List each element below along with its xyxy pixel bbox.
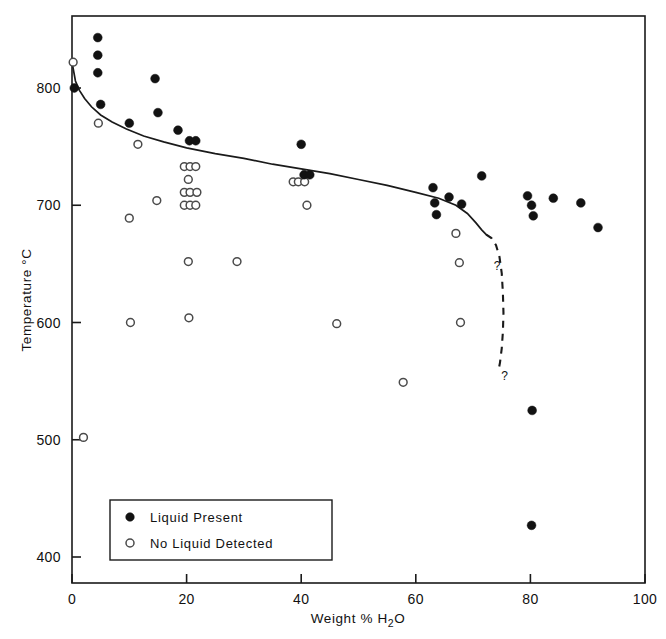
y-tick-label-700: 700 <box>36 197 61 213</box>
data-point-no-liquid-detected <box>333 320 341 328</box>
data-point-no-liquid-detected <box>94 119 102 127</box>
curve-question-mark: ? <box>494 259 501 273</box>
data-point-no-liquid-detected <box>303 201 311 209</box>
data-point-no-liquid-detected <box>455 259 463 267</box>
data-point-liquid-present <box>174 126 183 135</box>
data-point-liquid-present <box>527 201 536 210</box>
data-point-liquid-present <box>297 140 306 149</box>
legend: Liquid Present No Liquid Detected <box>110 500 332 560</box>
series-liquid-present-points <box>70 33 603 530</box>
data-point-liquid-present <box>154 108 163 117</box>
legend-marker-open-circle <box>126 539 134 547</box>
legend-label-liquid-present: Liquid Present <box>150 510 243 525</box>
series-no-liquid-detected-points <box>69 58 464 441</box>
scatter-plot: 400500600700800 020406080100 Temperature… <box>0 0 666 639</box>
data-point-liquid-present <box>477 172 486 181</box>
y-tick-label-600: 600 <box>36 315 61 331</box>
data-point-liquid-present <box>429 183 438 192</box>
x-axis-title-post: O <box>394 611 405 626</box>
y-axis-title: Temperature °C <box>19 248 34 351</box>
data-point-no-liquid-detected <box>457 319 465 327</box>
y-tick-label-500: 500 <box>36 432 61 448</box>
data-point-liquid-present <box>457 200 466 209</box>
data-point-no-liquid-detected <box>184 176 192 184</box>
data-point-liquid-present <box>70 84 79 93</box>
legend-marker-filled-circle <box>126 513 135 522</box>
x-axis-tick-labels: 020406080100 <box>68 591 657 607</box>
data-point-liquid-present <box>432 210 441 219</box>
data-point-liquid-present <box>528 406 537 415</box>
data-point-liquid-present <box>529 211 538 220</box>
x-tick-label-40: 40 <box>293 591 309 607</box>
x-tick-label-80: 80 <box>522 591 538 607</box>
data-point-no-liquid-detected <box>125 214 133 222</box>
data-point-liquid-present <box>191 136 200 145</box>
liquidus-solid <box>72 62 486 234</box>
x-axis-title-pre: Weight % H <box>311 611 388 626</box>
y-tick-label-800: 800 <box>36 80 61 96</box>
data-point-liquid-present <box>93 68 102 77</box>
x-axis-ticks <box>72 574 645 583</box>
legend-label-no-liquid-detected: No Liquid Detected <box>150 536 273 551</box>
data-point-no-liquid-detected <box>452 229 460 237</box>
data-point-no-liquid-detected <box>192 163 200 171</box>
data-point-liquid-present <box>96 100 105 109</box>
data-point-liquid-present <box>125 119 134 128</box>
x-tick-label-0: 0 <box>68 591 76 607</box>
data-point-no-liquid-detected <box>233 258 241 266</box>
y-axis-tick-labels: 400500600700800 <box>36 80 61 565</box>
data-point-liquid-present <box>151 74 160 83</box>
data-point-no-liquid-detected <box>193 188 201 196</box>
data-point-liquid-present <box>576 199 585 208</box>
data-point-liquid-present <box>305 170 314 179</box>
curve-question-mark: ? <box>501 369 508 383</box>
data-point-liquid-present <box>93 51 102 60</box>
data-point-no-liquid-detected <box>127 319 135 327</box>
data-point-liquid-present <box>549 194 558 203</box>
data-point-liquid-present <box>523 191 532 200</box>
phase-diagram-figure: 400500600700800 020406080100 Temperature… <box>0 0 666 639</box>
liquidus-dashed-extrapolation <box>486 235 503 372</box>
x-tick-label-20: 20 <box>178 591 194 607</box>
data-point-liquid-present <box>594 223 603 232</box>
x-tick-label-100: 100 <box>633 591 658 607</box>
y-axis-ticks <box>72 88 81 557</box>
data-point-no-liquid-detected <box>134 140 142 148</box>
data-point-liquid-present <box>93 33 102 42</box>
data-point-no-liquid-detected <box>185 314 193 322</box>
data-point-liquid-present <box>445 193 454 202</box>
plot-frame <box>72 16 645 583</box>
data-point-liquid-present <box>430 199 439 208</box>
data-point-no-liquid-detected <box>153 197 161 205</box>
x-tick-label-60: 60 <box>408 591 424 607</box>
data-point-no-liquid-detected <box>192 201 200 209</box>
data-point-no-liquid-detected <box>399 378 407 386</box>
data-point-no-liquid-detected <box>80 434 88 442</box>
data-point-no-liquid-detected <box>69 58 77 66</box>
legend-box <box>110 500 332 560</box>
y-tick-label-400: 400 <box>36 549 61 565</box>
data-point-liquid-present <box>527 521 536 530</box>
data-point-no-liquid-detected <box>184 258 192 266</box>
x-axis-title: Weight % H2O <box>311 611 406 629</box>
curve-annotations: ?? <box>494 259 508 383</box>
